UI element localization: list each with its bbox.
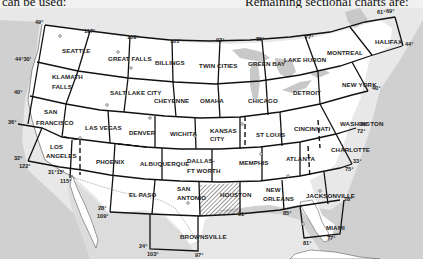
degree-label: 115°: [60, 178, 71, 184]
section-label-phoenix[interactable]: PHOENIX: [96, 158, 125, 165]
degree-label: 72°: [357, 128, 365, 134]
degree-label: 44°: [405, 41, 413, 47]
section-label-el-paso[interactable]: EL PASO: [129, 191, 156, 198]
section-label-kansas-city-1[interactable]: KANSAS: [210, 127, 237, 134]
degree-label: 117°: [84, 28, 95, 34]
section-label-san-francisco-2[interactable]: FRANCISCO: [36, 119, 74, 126]
section-label-detroit[interactable]: DETROIT: [293, 89, 321, 96]
degree-label: 122°: [19, 163, 31, 169]
section-label-klamath-falls-1[interactable]: KLAMATH: [52, 73, 83, 80]
degree-label: 77°: [327, 235, 335, 241]
section-label-brownsville[interactable]: BROWNSVILLE: [180, 233, 227, 240]
degree-label: 44°30': [15, 56, 32, 62]
section-label-los-angeles-2[interactable]: ANGELES: [46, 152, 77, 159]
section-label-dallas-2[interactable]: FT WORTH: [187, 167, 221, 174]
degree-label: 28°: [98, 205, 106, 211]
section-label-los-angeles-1[interactable]: LOS: [50, 143, 63, 150]
section-label-las-vegas[interactable]: LAS VEGAS: [85, 124, 122, 131]
section-label-great-falls[interactable]: GREAT FALLS: [108, 55, 152, 62]
degree-label: 109°: [97, 213, 109, 219]
degree-label: 31°15': [48, 169, 65, 175]
section-label-new-orleans-2[interactable]: ORLEANS: [263, 195, 294, 202]
section-label-kansas-city-2[interactable]: CITY: [210, 135, 225, 142]
degree-label: 28°: [344, 196, 352, 202]
section-label-san-antonio-2[interactable]: ANTONIO: [177, 194, 206, 201]
degree-label: 91°: [238, 211, 246, 217]
degree-label: 93°: [216, 37, 224, 43]
section-label-seattle[interactable]: SEATTLE: [62, 47, 90, 54]
section-label-st-louis[interactable]: ST LOUIS: [256, 131, 285, 138]
degree-label: 49°: [35, 19, 43, 25]
section-label-halifax[interactable]: HALIFAX: [375, 38, 403, 45]
chart-index-map-page: can be used: Remaining sectional charts …: [0, 0, 423, 259]
section-label-billings[interactable]: BILLINGS: [155, 59, 185, 66]
section-label-salt-lake-city[interactable]: SALT LAKE CITY: [110, 89, 162, 96]
section-label-cincinnati[interactable]: CINCINNATI: [294, 125, 330, 132]
degree-label: 36°: [360, 121, 368, 127]
section-label-new-orleans-1[interactable]: NEW: [266, 186, 281, 193]
degree-label: 75°: [345, 166, 353, 172]
section-label-lake-huron[interactable]: LAKE HURON: [284, 56, 327, 63]
section-label-omaha[interactable]: OMAHA: [200, 97, 224, 104]
degree-label: 32°: [14, 155, 22, 161]
degree-label: 40°: [14, 89, 22, 95]
section-label-montreal[interactable]: MONTREAL: [327, 49, 363, 56]
degree-label: 85°: [256, 36, 264, 42]
degree-label: 97°: [195, 252, 203, 258]
degree-label: 40°: [372, 85, 380, 91]
degree-label: 24°: [139, 243, 147, 249]
degree-label: 81°: [303, 240, 311, 246]
section-label-houston[interactable]: HOUSTON: [220, 191, 252, 198]
section-label-green-bay[interactable]: GREEN BAY: [248, 60, 286, 67]
degree-label: 109°: [127, 34, 139, 40]
section-label-atlanta[interactable]: ATLANTA: [286, 155, 315, 162]
degree-label: 77°: [305, 34, 313, 40]
section-label-san-francisco-1[interactable]: SAN: [44, 108, 58, 115]
degree-label: 103°: [147, 251, 159, 257]
sectional-chart-map: SEATTLEGREAT FALLSBILLINGSTWIN CITIESGRE…: [0, 0, 423, 259]
section-label-charlotte[interactable]: CHARLOTTE: [331, 146, 370, 153]
section-label-wichita[interactable]: WICHITA: [170, 130, 197, 137]
section-label-dallas-1[interactable]: DALLAS-: [187, 157, 215, 164]
section-label-miami[interactable]: MIAMI: [326, 224, 345, 231]
degree-label: 33°: [353, 158, 361, 164]
degree-label: 36°: [8, 119, 16, 125]
section-label-memphis[interactable]: MEMPHIS: [239, 159, 269, 166]
section-label-albuquerque[interactable]: ALBUQUERQUE: [140, 160, 190, 167]
section-label-denver[interactable]: DENVER: [129, 129, 156, 136]
degree-label: 101°: [170, 38, 182, 44]
degree-label: 85°: [283, 210, 291, 216]
degree-label: 69°: [386, 8, 394, 14]
degree-label: 61°: [377, 9, 385, 15]
section-label-chicago[interactable]: CHICAGO: [248, 97, 278, 104]
section-label-twin-cities[interactable]: TWIN CITIES: [199, 62, 238, 69]
section-label-klamath-falls-2[interactable]: FALLS: [52, 83, 72, 90]
section-label-cheyenne[interactable]: CHEYENNE: [154, 97, 189, 104]
section-label-san-antonio-1[interactable]: SAN: [177, 185, 191, 192]
